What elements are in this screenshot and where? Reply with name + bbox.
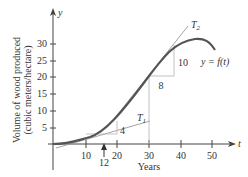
y-tick-label: 30 [37, 38, 47, 49]
rise-label-T1: 4 [120, 125, 125, 136]
y-tick-label: 20 [37, 71, 47, 82]
y-tick-label: 15 [37, 88, 47, 99]
rise-label-T2: 10 [178, 57, 188, 68]
chart: Volume of wood produced (cubic meters/he… [0, 0, 248, 177]
y-tick-label: 5 [42, 122, 47, 133]
y-axis-label-line1: Volume of wood produced [11, 37, 22, 143]
curve-label: y = f(t) [200, 56, 230, 68]
y-axis-label-line2: (cubic meters/hectare) [22, 45, 34, 134]
curve-f [53, 39, 215, 144]
y-axis-label: Volume of wood produced (cubic meters/he… [11, 37, 34, 143]
t12-label: 12 [99, 157, 109, 168]
T2-label: T2 [191, 19, 201, 32]
x-axis-symbol: t [238, 138, 241, 149]
x-tick-label: 30 [144, 150, 154, 161]
x-tick-label: 10 [81, 150, 91, 161]
y-axis-symbol: y [57, 7, 63, 18]
y-tick-label: 10 [37, 105, 47, 116]
x-axis-label: Years [138, 161, 160, 172]
x-tick-label: 40 [176, 150, 186, 161]
y-tick-label: 25 [37, 55, 47, 66]
x-tick-label: 50 [207, 150, 217, 161]
run-label-T2: 8 [159, 80, 164, 91]
x-tick-label: 20 [112, 150, 122, 161]
